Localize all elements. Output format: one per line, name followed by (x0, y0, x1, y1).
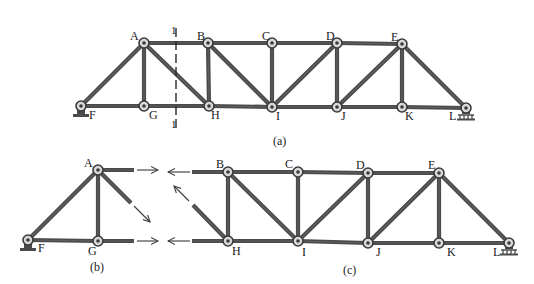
node-label-k: K (405, 109, 414, 123)
member-hi (209, 106, 272, 107)
figure-c-caption: (c) (343, 263, 356, 277)
node-label-c: C (262, 29, 270, 43)
node-label-b: B (216, 157, 224, 171)
truss-diagram: ABCDEFGHIJKL11(a) AFG(b) BCDEHIJKL(c) (0, 0, 534, 284)
node-label-j: J (376, 245, 381, 259)
node-g (139, 101, 149, 111)
member-kl (402, 107, 466, 108)
node-a (139, 38, 149, 48)
force-arrow-icon (174, 186, 189, 201)
section-cut-line: 11 (171, 24, 177, 130)
figure-b-left-section: AFG(b) (20, 156, 158, 274)
node-label-f: F (89, 108, 96, 122)
member-fa (28, 170, 98, 240)
node-label-e: E (391, 30, 398, 44)
node-label-h: H (211, 108, 220, 122)
node-a (93, 165, 103, 175)
figure-c-right-section: BCDEHIJKL(c) (168, 157, 518, 277)
node-label-i: I (276, 109, 280, 123)
node-label-l: L (449, 109, 456, 123)
member-bi (228, 172, 298, 241)
node-label-e: E (428, 158, 435, 172)
member-id (272, 43, 337, 107)
node-label-j: J (341, 109, 346, 123)
node-label-h: H (232, 244, 241, 258)
force-arrow-icon (134, 206, 150, 222)
node-label-c: C (285, 157, 293, 171)
figure-b-caption: (b) (90, 260, 104, 274)
cut-member-stub (193, 205, 228, 241)
section-label-top: 1 (171, 24, 177, 36)
member-bh (208, 43, 209, 106)
node-label-d: D (356, 158, 365, 172)
node-l (504, 238, 514, 248)
member-el (439, 173, 509, 243)
node-label-i: I (302, 245, 306, 259)
node-e (434, 168, 444, 178)
member-fa (81, 43, 144, 106)
cut-member-stub (98, 170, 131, 203)
node-label-g: G (149, 108, 158, 122)
node-label-d: D (326, 29, 335, 43)
member-id (298, 173, 368, 241)
node-f (23, 235, 33, 245)
node-label-a: A (84, 156, 93, 170)
member-bi (208, 43, 272, 107)
node-label-a: A (130, 29, 139, 43)
node-label-b: B (197, 29, 205, 43)
node-c (293, 167, 303, 177)
member-ij (298, 241, 368, 243)
node-label-l: L (493, 245, 500, 259)
node-l (461, 103, 471, 113)
node-j (363, 238, 373, 248)
section-label-bottom: 1 (171, 118, 177, 130)
member-el (402, 44, 466, 108)
node-f (76, 101, 86, 111)
node-k (434, 238, 444, 248)
node-label-g: G (88, 244, 97, 258)
node-label-f: F (38, 241, 45, 255)
member-je (337, 44, 402, 107)
figure-a-full-truss: ABCDEFGHIJKL11(a) (73, 24, 475, 148)
node-b (223, 167, 233, 177)
member-je (368, 173, 439, 243)
node-e (397, 39, 407, 49)
node-label-k: K (447, 245, 456, 259)
figure-a-caption: (a) (273, 134, 286, 148)
member-cd (298, 172, 368, 173)
